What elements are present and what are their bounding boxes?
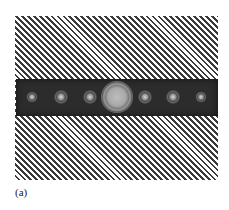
diffraction-order-spot: [138, 90, 152, 104]
diffraction-order-spot: [166, 90, 180, 104]
diffraction-order-spot: [27, 92, 38, 103]
diffraction-order-spot: [54, 90, 68, 104]
figure-label: (a): [15, 186, 27, 198]
diffraction-order-spot: [196, 92, 207, 103]
diffraction-order-spot: [83, 90, 97, 104]
diffraction-order-spot: [101, 81, 133, 113]
